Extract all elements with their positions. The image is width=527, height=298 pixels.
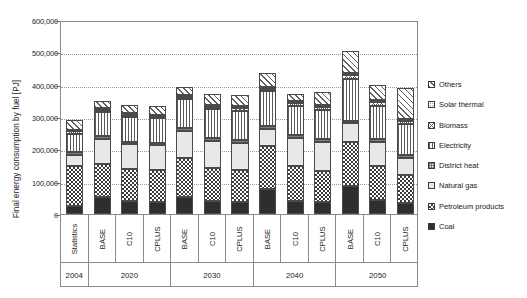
bar-segment[interactable] [149, 170, 166, 202]
bar-column[interactable] [369, 85, 386, 214]
bar-segment[interactable] [66, 120, 83, 130]
bar-segment[interactable] [369, 200, 386, 214]
bar-segment[interactable] [342, 142, 359, 186]
bar-segment[interactable] [149, 116, 166, 118]
bar-segment[interactable] [314, 105, 331, 107]
bar-segment[interactable] [397, 155, 414, 158]
bar-segment[interactable] [94, 139, 111, 164]
bar-segment[interactable] [259, 126, 276, 129]
bar-segment[interactable] [66, 206, 83, 214]
legend-item[interactable]: District heat [428, 161, 524, 170]
bar-segment[interactable] [259, 91, 276, 126]
bar-segment[interactable] [121, 169, 138, 201]
bar-segment[interactable] [176, 128, 193, 131]
bar-segment[interactable] [231, 95, 248, 106]
bar-column[interactable] [342, 51, 359, 214]
bar-segment[interactable] [314, 171, 331, 202]
legend-item[interactable]: Solar thermal [428, 100, 524, 109]
bar-segment[interactable] [369, 106, 386, 139]
bar-segment[interactable] [66, 166, 83, 207]
bar-segment[interactable] [204, 141, 221, 168]
bar-segment[interactable] [369, 166, 386, 201]
bar-segment[interactable] [259, 189, 276, 214]
bar-segment[interactable] [397, 203, 414, 214]
bar-segment[interactable] [94, 110, 111, 112]
bar-segment[interactable] [397, 121, 414, 124]
bar-segment[interactable] [342, 121, 359, 124]
bar-segment[interactable] [259, 87, 276, 89]
bar-segment[interactable] [369, 142, 386, 166]
bar-segment[interactable] [176, 158, 193, 196]
legend-item[interactable]: Petroleum products [428, 202, 524, 211]
legend-item[interactable]: Coal [428, 222, 524, 231]
bar-segment[interactable] [121, 115, 138, 117]
bar-segment[interactable] [231, 108, 248, 111]
bar-segment[interactable] [287, 94, 304, 101]
bar-segment[interactable] [314, 139, 331, 142]
bar-segment[interactable] [231, 111, 248, 140]
bar-segment[interactable] [397, 88, 414, 119]
bar-column[interactable] [231, 95, 248, 214]
bar-segment[interactable] [314, 107, 331, 110]
bar-column[interactable] [66, 120, 83, 214]
bar-segment[interactable] [287, 103, 304, 106]
bar-segment[interactable] [149, 143, 166, 146]
bar-column[interactable] [287, 94, 304, 214]
bar-segment[interactable] [94, 101, 111, 108]
bar-segment[interactable] [259, 146, 276, 189]
bar-segment[interactable] [204, 201, 221, 214]
bar-segment[interactable] [121, 142, 138, 145]
bar-segment[interactable] [176, 87, 193, 95]
bar-segment[interactable] [204, 138, 221, 141]
legend-item[interactable]: Electricity [428, 141, 524, 150]
bar-column[interactable] [314, 92, 331, 214]
bar-column[interactable] [204, 94, 221, 214]
bar-segment[interactable] [66, 134, 83, 152]
bar-segment[interactable] [287, 101, 304, 103]
bar-segment[interactable] [314, 110, 331, 140]
bar-segment[interactable] [314, 92, 331, 104]
bar-segment[interactable] [342, 51, 359, 73]
bar-segment[interactable] [397, 124, 414, 154]
bar-segment[interactable] [149, 202, 166, 214]
bar-segment[interactable] [287, 106, 304, 135]
bar-segment[interactable] [204, 94, 221, 105]
bar-segment[interactable] [204, 107, 221, 110]
bar-column[interactable] [259, 73, 276, 214]
bar-segment[interactable] [369, 139, 386, 142]
bar-segment[interactable] [231, 202, 248, 214]
bar-segment[interactable] [121, 105, 138, 113]
bar-segment[interactable] [259, 89, 276, 92]
bar-column[interactable] [121, 105, 138, 214]
bar-segment[interactable] [231, 140, 248, 143]
bar-segment[interactable] [176, 97, 193, 100]
bar-segment[interactable] [94, 197, 111, 214]
bar-segment[interactable] [369, 100, 386, 103]
bar-segment[interactable] [66, 155, 83, 166]
bar-column[interactable] [397, 88, 414, 214]
bar-segment[interactable] [176, 197, 193, 214]
bar-segment[interactable] [369, 102, 386, 105]
bar-segment[interactable] [121, 144, 138, 169]
bar-segment[interactable] [369, 85, 386, 100]
bar-segment[interactable] [287, 201, 304, 214]
bar-segment[interactable] [259, 73, 276, 86]
bar-segment[interactable] [176, 99, 193, 127]
bar-segment[interactable] [259, 129, 276, 146]
bar-segment[interactable] [231, 143, 248, 170]
bar-segment[interactable] [94, 164, 111, 197]
bar-segment[interactable] [204, 109, 221, 137]
bar-segment[interactable] [397, 175, 414, 203]
bar-segment[interactable] [66, 131, 83, 134]
bar-segment[interactable] [342, 73, 359, 76]
bar-segment[interactable] [94, 136, 111, 139]
bar-segment[interactable] [342, 123, 359, 142]
bar-segment[interactable] [287, 166, 304, 200]
bar-segment[interactable] [149, 106, 166, 115]
bar-segment[interactable] [342, 75, 359, 78]
bar-segment[interactable] [287, 135, 304, 138]
bar-segment[interactable] [121, 117, 138, 142]
bar-segment[interactable] [66, 152, 83, 155]
legend-item[interactable]: Natural gas [428, 181, 524, 190]
bar-segment[interactable] [342, 79, 359, 121]
